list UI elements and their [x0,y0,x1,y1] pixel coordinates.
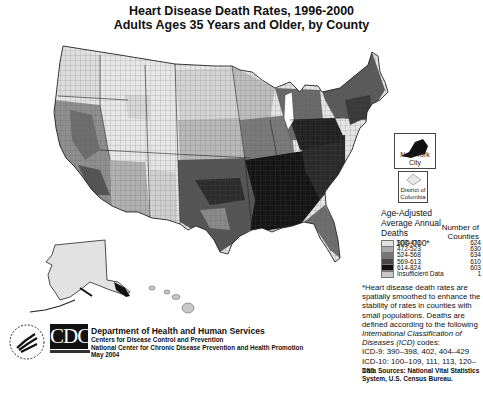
footnote: *Heart disease death rates are spatially… [362,283,482,375]
legend: 303-471 624 472-523 630 524-568 634 569-… [381,240,481,277]
data-sources: Data Sources: National Vital Statistics … [362,367,482,382]
cdc-logo: CDC [50,324,88,349]
nyc-label: New York City [395,151,435,167]
dc-map-icon [399,172,427,186]
legend-swatch [381,271,394,278]
center-name: National Center for Chronic Disease Prev… [91,344,303,352]
legend-row: Insufficient Data 1 [381,271,481,277]
publish-date: May 2004 [91,351,303,359]
footer: Department of Health and Human Services … [91,326,303,359]
alaska-inset [30,240,130,312]
dept-name: Department of Health and Human Services [91,326,303,336]
dc-label: District of Columbia [399,187,427,201]
contiguous-us [40,40,400,270]
cdc-tagline-bar [50,350,90,353]
hhs-eagle-icon [7,322,47,362]
nyc-inset: New York City [394,133,436,169]
dc-inset: District of Columbia [398,171,428,203]
hawaii-inset [149,286,194,313]
agency-name: Centers for Disease Control and Preventi… [91,336,303,344]
